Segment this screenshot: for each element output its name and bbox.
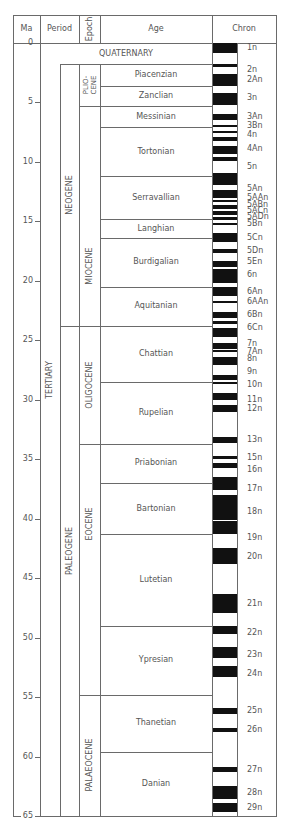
normal-polarity-band — [213, 321, 237, 323]
ma-tick-label: 20 — [23, 277, 33, 285]
age-boundary — [100, 238, 212, 239]
ma-tick — [35, 400, 40, 401]
subperiod-neogene: NEOGENE — [66, 175, 74, 215]
normal-polarity-band — [213, 350, 237, 352]
frame-right — [276, 15, 277, 817]
ma-tick-label: 0 — [28, 39, 33, 47]
chron-label: 6An — [247, 288, 263, 296]
subperiod-boundary — [60, 326, 79, 327]
age-label: Serravallian — [132, 194, 180, 202]
age-boundary — [100, 483, 212, 484]
normal-polarity-band — [213, 249, 237, 254]
normal-polarity-band — [213, 548, 237, 563]
normal-polarity-band — [213, 233, 237, 241]
header-sep-age — [100, 15, 101, 43]
normal-polarity-band — [213, 223, 237, 225]
ma-tick — [35, 697, 40, 698]
age-boundary — [100, 287, 212, 288]
chron-label: 23n — [247, 651, 262, 659]
chron-label: 12n — [247, 405, 262, 413]
ma-tick-label: 5 — [28, 98, 33, 106]
normal-polarity-band — [213, 521, 237, 534]
normal-polarity-band — [213, 437, 237, 443]
normal-polarity-band — [213, 190, 237, 197]
chron-label: 19n — [247, 534, 262, 542]
chron-label: 6n — [247, 271, 257, 279]
age-label: Burdigalian — [133, 258, 178, 266]
ma-tick — [35, 43, 40, 44]
normal-polarity-band — [213, 456, 237, 460]
epoch-label: PLIO- CENE — [82, 76, 98, 95]
chron-label: 3n — [247, 94, 257, 102]
chron-label: 24n — [247, 670, 262, 678]
epoch-label: EOCENE — [86, 508, 94, 541]
ma-tick-label: 60 — [23, 753, 33, 761]
frame-top — [13, 15, 276, 16]
chron-label: 1n — [247, 44, 257, 52]
header-ma: Ma — [21, 25, 33, 33]
normal-polarity-band — [213, 728, 237, 732]
ma-tick-left — [15, 43, 21, 44]
ma-left-line — [13, 43, 14, 817]
chron-label: 27n — [247, 766, 262, 774]
chron-label: 8n — [247, 355, 257, 363]
age-label: Ypresian — [139, 656, 173, 664]
normal-polarity-band — [213, 173, 237, 185]
normal-polarity-band — [213, 495, 237, 520]
normal-polarity-band — [213, 375, 237, 380]
age-boundary — [100, 752, 212, 753]
header-epoch: Epoch — [86, 17, 94, 42]
normal-polarity-band — [213, 261, 237, 267]
age-boundary — [100, 219, 212, 220]
ma-tick-label: 35 — [23, 455, 33, 463]
age-label: Piacenzian — [135, 71, 178, 79]
chron-label: 21n — [247, 600, 262, 608]
age-label: Thanetian — [136, 719, 176, 727]
ma-tick — [35, 638, 40, 639]
normal-polarity-band — [213, 205, 237, 210]
chron-label: 4n — [247, 131, 257, 139]
chron-label: 5Dn — [247, 247, 263, 255]
chron-label: 15n — [247, 454, 262, 462]
ma-tick-label: 50 — [23, 634, 33, 642]
chron-label: 25n — [247, 707, 262, 715]
normal-polarity-band — [213, 343, 237, 349]
epoch-left-line — [79, 64, 80, 816]
ma-tick — [35, 816, 40, 817]
period-divider — [60, 64, 61, 816]
normal-polarity-band — [213, 594, 237, 613]
chron-label: 4An — [247, 145, 263, 153]
normal-polarity-band — [213, 626, 237, 634]
chron-label: 22n — [247, 629, 262, 637]
normal-polarity-band — [213, 200, 237, 202]
chron-label: 18n — [247, 508, 262, 516]
normal-polarity-band — [213, 64, 237, 66]
normal-polarity-band — [213, 312, 237, 318]
ma-tick — [35, 102, 40, 103]
chron-bar-right — [237, 43, 238, 816]
ma-tick — [35, 519, 40, 520]
age-label: Bartonian — [137, 505, 176, 513]
normal-polarity-band — [213, 393, 237, 400]
epoch-label: PALAEOCENE — [86, 739, 94, 792]
subperiod-paleogene: PALEOGENE — [66, 527, 74, 575]
chron-label: 9n — [247, 368, 257, 376]
age-label: Lutetian — [140, 576, 173, 584]
ma-tick-label: 40 — [23, 515, 33, 523]
chron-label: 20n — [247, 553, 262, 561]
chron-label: 26n — [247, 726, 262, 734]
normal-polarity-band — [213, 157, 237, 161]
normal-polarity-band — [213, 477, 237, 490]
quaternary-bottom — [60, 64, 232, 65]
normal-polarity-band — [213, 114, 237, 120]
age-boundary — [100, 816, 212, 817]
ma-axis-line — [40, 15, 41, 817]
normal-polarity-band — [213, 786, 237, 799]
normal-polarity-band — [213, 217, 237, 221]
chron-label: 5En — [247, 258, 262, 266]
age-boundary — [100, 127, 212, 128]
chron-label: 3An — [247, 113, 263, 121]
normal-polarity-band — [213, 131, 237, 133]
chron-label: 6AAn — [247, 298, 268, 306]
chron-label: 28n — [247, 789, 262, 797]
